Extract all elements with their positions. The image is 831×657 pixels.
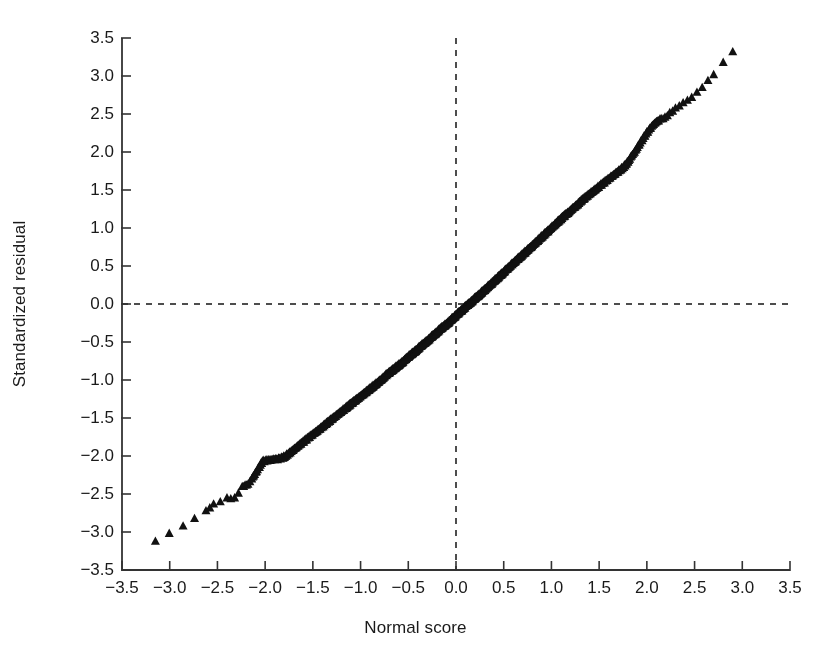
qq-plot-figure: Standardized residual Normal score [0, 0, 831, 657]
qq-plot-canvas [0, 0, 831, 657]
y-axis-label-container: Standardized residual [0, 0, 40, 608]
x-axis-label: Normal score [0, 618, 831, 638]
y-axis-label: Standardized residual [10, 221, 30, 388]
